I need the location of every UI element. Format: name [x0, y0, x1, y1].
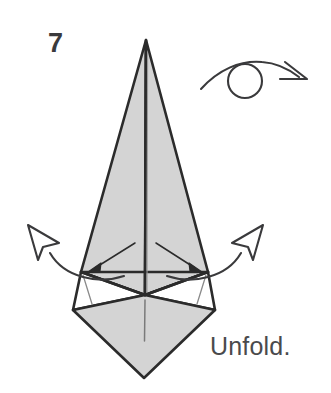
bottom-center-crease	[145, 300, 146, 341]
turn-over-arrowhead-icon	[280, 62, 307, 79]
origami-diagram-page: 7 Unfold.	[0, 0, 331, 393]
center-crease-highlight	[147, 52, 148, 292]
unfold-arrow-left-head-icon	[28, 225, 59, 260]
unfold-arrow-right-head-icon	[232, 225, 263, 260]
turn-over-circle-icon	[228, 64, 262, 98]
step-number: 7	[48, 30, 63, 57]
turn-over-symbol	[201, 62, 307, 98]
center-crease-line	[145, 44, 146, 294]
instruction-caption: Unfold.	[210, 334, 291, 359]
